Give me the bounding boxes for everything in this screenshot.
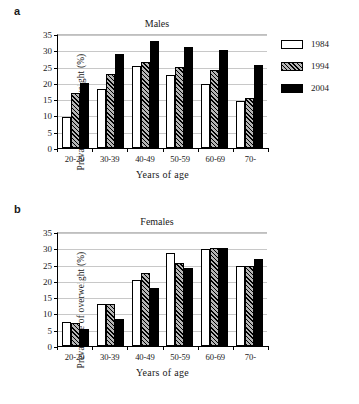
bar [141,273,150,346]
y-tick-label: 5 [48,128,53,137]
bar-group [162,35,197,148]
bar [184,268,193,346]
bar-group [58,35,93,148]
x-tick-mark [163,148,164,152]
bar [245,98,254,148]
x-tick-label: 60-69 [198,154,233,164]
x-tick-mark [127,148,128,152]
bar [132,66,141,148]
bar [210,248,219,346]
bar [175,263,184,346]
bar [210,70,219,148]
y-tick-label: 35 [43,229,52,238]
x-tick-label: 60-69 [198,352,233,362]
x-tick-mark [233,148,234,152]
bar [184,47,193,148]
x-tick-mark [92,346,93,350]
figure: a Males Prevalence of overweight (%) 051… [0,0,359,404]
hatched-swatch [281,62,303,71]
bar-group [128,35,163,148]
x-tick-mark [198,148,199,152]
x-tick-mark [268,148,269,152]
x-tick-marks-females [57,346,268,350]
black-swatch [281,84,303,93]
legend-label: 2004 [311,84,329,93]
x-tick-label: 50-59 [163,154,198,164]
x-tick-label: 70- [233,352,268,362]
x-tick-label: 20-29 [57,154,92,164]
y-tick-label: 25 [43,261,52,270]
y-tick-label: 15 [43,294,52,303]
plot-area-females: Prevalence of overweight (%) 05101520253… [57,232,267,346]
bar [219,50,228,148]
bar-group [93,35,128,148]
bar [141,62,150,148]
legend-item: 2004 [281,81,329,96]
plot-area-males: Prevalence of overweight (%) 05101520253… [57,34,267,148]
y-tick-label: 15 [43,96,52,105]
bar [80,329,89,346]
y-tick-label: 30 [43,47,52,56]
x-tick-labels-males: 20-2930-3940-4950-5960-6970- [57,154,268,164]
panel-females: b Females Prevalence of overweight (%) 0… [0,202,359,398]
bar-group [232,233,267,346]
legend-item: 1994 [281,59,329,74]
y-tick-label: 5 [48,326,53,335]
bar-group [197,35,232,148]
legend: 198419942004 [281,37,329,103]
bar [254,259,263,346]
x-tick-mark [57,148,58,152]
panel-letter-a: a [14,6,20,17]
bar-group [128,233,163,346]
x-tick-label: 30-39 [92,154,127,164]
white-outline-swatch [281,40,303,49]
bar [166,75,175,148]
bar [115,54,124,148]
bar [115,319,124,346]
x-tick-label: 40-49 [127,154,162,164]
bar [106,74,115,148]
y-tick-label: 0 [48,343,53,352]
y-tick-label: 10 [43,310,52,319]
bar [219,248,228,346]
bar [150,41,159,148]
x-tick-label: 30-39 [92,352,127,362]
bar [97,304,106,346]
x-tick-mark [268,346,269,350]
x-tick-label: 20-29 [57,352,92,362]
bar-groups-females [58,233,267,346]
x-tick-mark [57,346,58,350]
bar [201,249,210,346]
panel-title-females: Females [62,216,252,227]
bar [97,89,106,148]
y-tick-label: 35 [43,31,52,40]
y-tick-label: 10 [43,112,52,121]
x-tick-marks-males [57,148,268,152]
bar-group [93,233,128,346]
x-tick-label: 40-49 [127,352,162,362]
bar-group [162,233,197,346]
bar [254,65,263,148]
bar-group [232,35,267,148]
bar [236,101,245,148]
y-tick-label: 0 [48,145,53,154]
x-tick-mark [198,346,199,350]
panel-males: a Males Prevalence of overweight (%) 051… [0,4,359,200]
y-tick-label: 20 [43,79,52,88]
panel-title-males: Males [62,18,252,29]
x-tick-labels-females: 20-2930-3940-4950-5960-6970- [57,352,268,362]
bar [245,266,254,346]
bar [132,280,141,346]
x-axis-label-females: Years of age [57,367,268,378]
bar [80,83,89,148]
panel-letter-b: b [14,204,21,215]
bar [62,117,71,148]
bar [150,288,159,346]
bar [71,323,80,346]
legend-item: 1984 [281,37,329,52]
bar [175,67,184,148]
bar-groups-males [58,35,267,148]
bar [106,304,115,346]
x-tick-label: 70- [233,154,268,164]
y-tick-label: 30 [43,245,52,254]
